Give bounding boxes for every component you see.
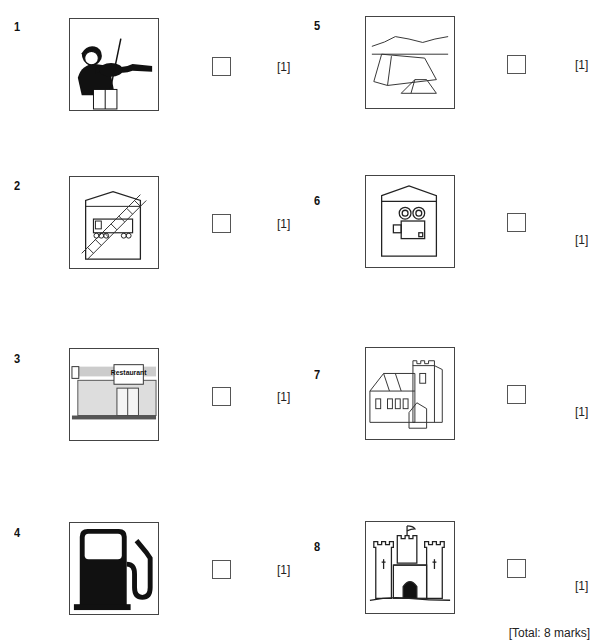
question-number: 3 — [14, 351, 20, 366]
answer-checkbox[interactable] — [212, 214, 231, 233]
answer-checkbox[interactable] — [212, 560, 231, 579]
question-number: 1 — [14, 19, 20, 34]
mark-label: [1] — [277, 217, 290, 231]
mark-label: [1] — [277, 563, 290, 577]
question-number: 2 — [14, 178, 20, 193]
answer-checkbox[interactable] — [507, 559, 526, 578]
mark-label: [1] — [575, 233, 588, 247]
railway-museum-icon — [69, 176, 159, 269]
mark-label: [1] — [277, 60, 290, 74]
question-number: 6 — [314, 193, 320, 208]
question-number: 5 — [314, 18, 320, 33]
answer-checkbox[interactable] — [507, 385, 526, 404]
question-number: 4 — [14, 525, 20, 540]
mark-label: [1] — [575, 58, 588, 72]
mark-label: [1] — [575, 579, 588, 593]
total-marks: [Total: 8 marks] — [509, 626, 590, 640]
campsite-icon — [365, 16, 455, 109]
mark-label: [1] — [277, 390, 290, 404]
petrol-pump-icon — [69, 522, 159, 615]
restaurant-icon: Restaurant — [69, 348, 159, 441]
question-number: 8 — [314, 539, 320, 554]
question-number: 7 — [314, 367, 320, 382]
answer-checkbox[interactable] — [212, 57, 231, 76]
cinema-icon — [365, 175, 455, 268]
violinist-icon — [69, 18, 159, 111]
mark-label: [1] — [575, 405, 588, 419]
castle-icon — [365, 521, 455, 614]
church-icon — [365, 347, 455, 440]
answer-checkbox[interactable] — [507, 55, 526, 74]
answer-checkbox[interactable] — [212, 387, 231, 406]
svg-text:Restaurant: Restaurant — [111, 369, 147, 376]
answer-checkbox[interactable] — [507, 213, 526, 232]
